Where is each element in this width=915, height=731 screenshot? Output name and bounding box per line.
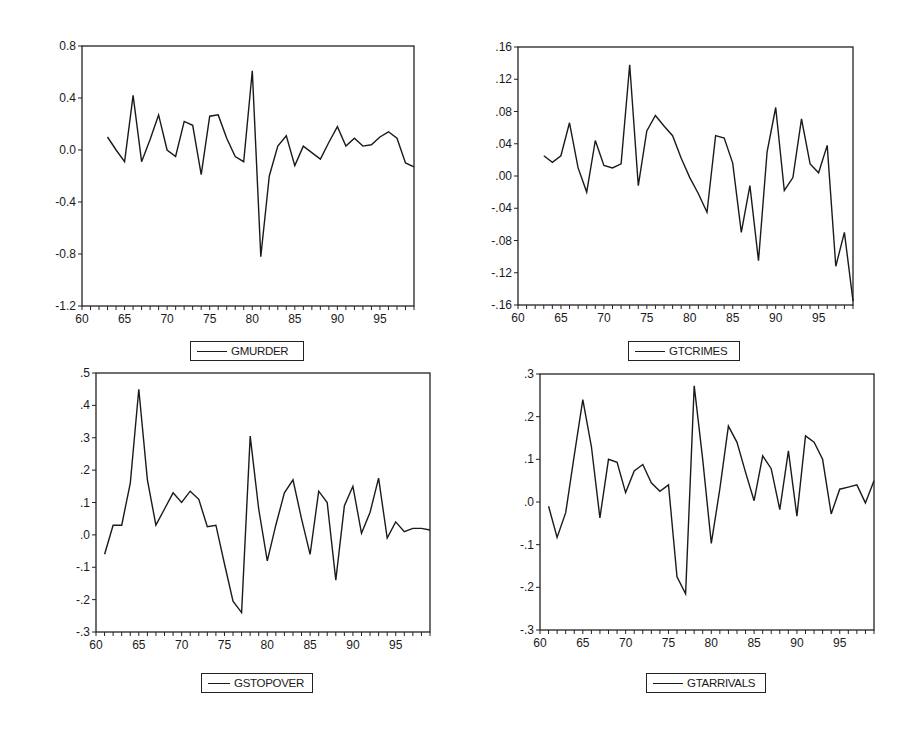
plot-frame — [82, 46, 414, 306]
legend-label: GTCRIMES — [669, 345, 727, 357]
x-tick-label: 75 — [203, 312, 217, 326]
legend-label: GSTOPOVER — [234, 677, 304, 689]
x-tick-label: 75 — [218, 638, 232, 652]
x-tick-label: 90 — [769, 311, 783, 325]
legend-gmurder: GMURDER — [190, 341, 304, 361]
line-chart-gmurder: 0.80.40.0-0.4-0.8-1.26065707580859095 — [0, 0, 457, 330]
x-tick-label: 80 — [683, 311, 697, 325]
y-tick-label: .5 — [80, 366, 90, 380]
y-tick-label: .3 — [524, 367, 534, 381]
x-tick-label: 90 — [346, 638, 360, 652]
x-tick-label: 60 — [89, 638, 103, 652]
y-tick-label: -.04 — [491, 201, 512, 215]
x-tick-label: 85 — [288, 312, 302, 326]
x-tick-label: 80 — [246, 312, 260, 326]
legend-line-icon — [208, 683, 230, 684]
x-tick-label: 70 — [160, 312, 174, 326]
x-tick-label: 70 — [597, 311, 611, 325]
y-tick-label: .0 — [80, 528, 90, 542]
y-tick-label: -.2 — [520, 580, 534, 594]
x-tick-label: 85 — [303, 638, 317, 652]
y-tick-label: .1 — [80, 496, 90, 510]
y-tick-label: .12 — [495, 72, 512, 86]
y-tick-label: .0 — [524, 495, 534, 509]
y-tick-label: .00 — [495, 169, 512, 183]
y-tick-label: -.2 — [76, 593, 90, 607]
x-tick-label: 70 — [619, 636, 633, 650]
y-tick-label: -0.8 — [55, 247, 76, 261]
x-tick-label: 60 — [75, 312, 89, 326]
line-chart-gtarrivals: .3.2.1.0-.1-.2-.36065707580859095 — [457, 365, 915, 665]
y-tick-label: -1.2 — [55, 299, 76, 313]
y-tick-label: .08 — [495, 105, 512, 119]
legend-gtcrimes: GTCRIMES — [628, 341, 740, 361]
y-tick-label: -0.4 — [55, 195, 76, 209]
y-tick-label: -.12 — [491, 266, 512, 280]
legend-gtarrivals: GTARRIVALS — [646, 673, 766, 693]
x-tick-label: 65 — [118, 312, 132, 326]
legend-gstopover: GSTOPOVER — [201, 673, 313, 693]
legend-label: GMURDER — [231, 345, 288, 357]
chart-gtcrimes: .16.12.08.04.00-.04-.08-.12-.16606570758… — [457, 0, 915, 365]
x-tick-label: 60 — [511, 311, 525, 325]
y-tick-label: .4 — [80, 398, 90, 412]
series-line — [549, 386, 874, 594]
y-tick-label: 0.4 — [59, 91, 76, 105]
legend-label: GTARRIVALS — [687, 677, 755, 689]
x-tick-label: 95 — [389, 638, 403, 652]
x-tick-label: 90 — [790, 636, 804, 650]
chart-gmurder: 0.80.40.0-0.4-0.8-1.26065707580859095 — [0, 0, 457, 365]
series-line — [108, 71, 415, 257]
y-tick-label: -.1 — [520, 538, 534, 552]
y-tick-label: .1 — [524, 452, 534, 466]
y-tick-label: -.16 — [491, 298, 512, 312]
x-tick-label: 75 — [662, 636, 676, 650]
y-tick-label: 0.0 — [59, 143, 76, 157]
y-tick-label: .16 — [495, 40, 512, 54]
y-tick-label: -.3 — [76, 625, 90, 639]
y-tick-label: .2 — [80, 463, 90, 477]
legend-line-icon — [635, 351, 665, 352]
series-line — [544, 65, 853, 301]
legend-line-icon — [197, 351, 227, 352]
line-chart-gstopover: .5.4.3.2.1.0-.1-.2-.36065707580859095 — [0, 365, 457, 665]
x-tick-label: 65 — [132, 638, 146, 652]
x-tick-label: 70 — [175, 638, 189, 652]
y-tick-label: -.08 — [491, 234, 512, 248]
y-tick-label: .04 — [495, 137, 512, 151]
line-chart-gtcrimes: .16.12.08.04.00-.04-.08-.12-.16606570758… — [457, 0, 915, 330]
x-tick-label: 60 — [533, 636, 547, 650]
x-tick-label: 75 — [640, 311, 654, 325]
x-tick-label: 85 — [726, 311, 740, 325]
x-tick-label: 90 — [331, 312, 345, 326]
x-tick-label: 80 — [261, 638, 275, 652]
x-tick-label: 80 — [705, 636, 719, 650]
y-tick-label: 0.8 — [59, 39, 76, 53]
plot-frame — [96, 373, 430, 632]
y-tick-label: .2 — [524, 410, 534, 424]
x-tick-label: 95 — [373, 312, 387, 326]
y-tick-label: .3 — [80, 431, 90, 445]
plot-frame — [518, 47, 853, 305]
x-tick-label: 85 — [747, 636, 761, 650]
x-tick-label: 65 — [576, 636, 590, 650]
series-line — [105, 389, 430, 612]
y-tick-label: -.1 — [76, 560, 90, 574]
x-tick-label: 95 — [833, 636, 847, 650]
x-tick-label: 95 — [812, 311, 826, 325]
x-tick-label: 65 — [554, 311, 568, 325]
legend-line-icon — [653, 683, 683, 684]
y-tick-label: -.3 — [520, 623, 534, 637]
